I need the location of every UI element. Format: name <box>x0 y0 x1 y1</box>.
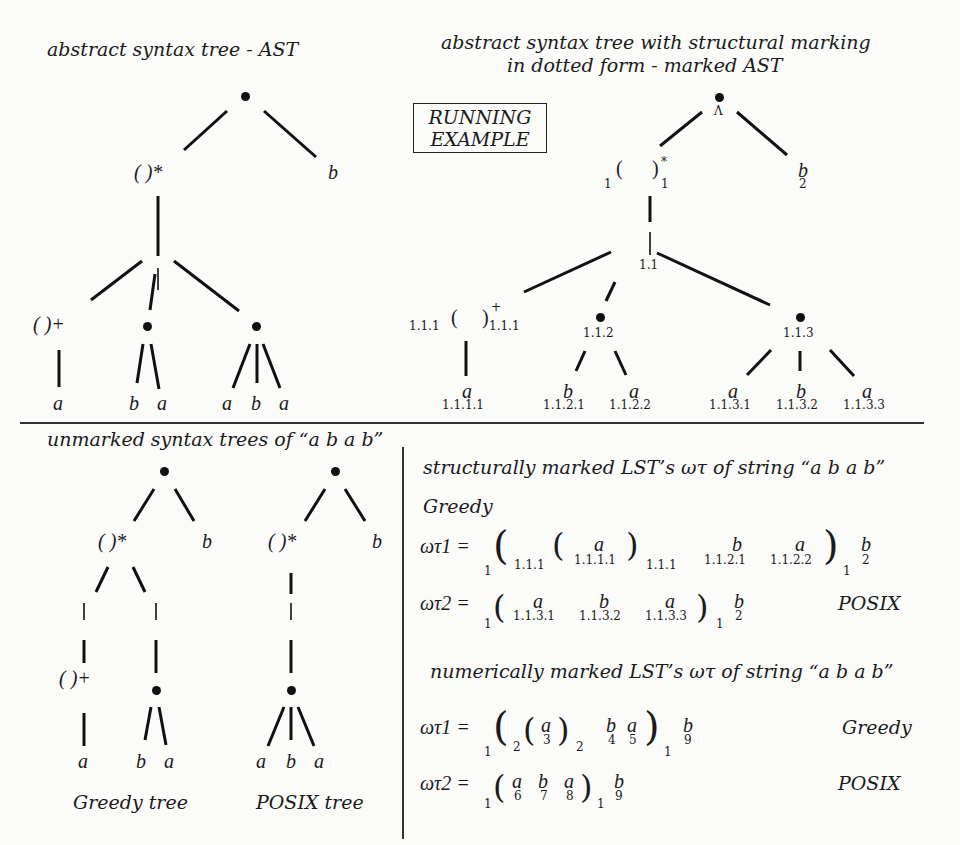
marked-leaf-mark: 1.1.3.1 <box>709 398 751 412</box>
n1-outer-close-paren: ) <box>644 706 660 746</box>
n1-a2-mark: 5 <box>629 733 637 747</box>
posix-root-bullet <box>331 467 340 476</box>
posix-leaf: b <box>286 750 296 773</box>
n2-outer-close-paren: ) <box>580 767 592 807</box>
s2-outer-open-paren: ( <box>493 587 505 627</box>
marked-plus-left-mark: 1.1.1 <box>409 319 440 333</box>
greedy-leaf: b <box>136 750 146 773</box>
marked-b-mark: 2 <box>799 177 807 191</box>
s1-inner-open-paren: ( <box>552 525 564 565</box>
n1-a1-mark: 3 <box>543 733 551 747</box>
marked-leaf-mark: 1.1.3.2 <box>776 398 818 412</box>
unmarked-trees-title: unmarked syntax trees of “a b a b” <box>47 428 383 450</box>
greedy-tree-caption: Greedy tree <box>73 791 188 813</box>
s1-outer-open-paren: ( <box>493 525 509 565</box>
s2-outer-close-mark: 1 <box>716 617 724 631</box>
posix-leaf: a <box>314 750 324 773</box>
marked-leaf-mark: 1.1.3.3 <box>843 398 885 412</box>
s2-outer-close-paren: ) <box>696 587 708 627</box>
s1-inner-open-mark: 1.1.1 <box>514 558 545 572</box>
numeric-lst-title: numerically marked LST’s ωτ of string “a… <box>430 660 893 682</box>
ast-leaf: b <box>251 392 261 415</box>
s2-b2-mark: 2 <box>735 609 743 623</box>
greedy-star-node: ( )* <box>98 530 126 553</box>
marked-node3-mark: 1.1.3 <box>783 326 814 340</box>
s1-a2-mark: 1.1.2.2 <box>770 553 812 567</box>
ast-leaf: a <box>53 392 63 415</box>
vertical-divider <box>402 447 404 839</box>
posix-leaf: a <box>256 750 266 773</box>
ast-plus-node: ( )+ <box>33 313 65 336</box>
s1-a1-mark: 1.1.1.1 <box>574 553 616 567</box>
horizontal-divider <box>20 422 924 424</box>
n2-posix-label: POSIX <box>838 772 900 794</box>
n1-outer-open-mark: 1 <box>484 745 492 759</box>
s2-b1-mark: 1.1.3.2 <box>579 609 621 623</box>
posix-bullet <box>287 686 296 695</box>
s1-lhs: ωτ1 = <box>420 535 470 558</box>
posix-tree-caption: POSIX tree <box>256 791 364 813</box>
s1-outer-close-mark: 1 <box>843 564 851 578</box>
s2-a2-mark: 1.1.3.3 <box>645 609 687 623</box>
greedy-root-bullet <box>160 467 169 476</box>
s2-a1-mark: 1.1.3.1 <box>513 609 555 623</box>
posix-star-node: ( )* <box>268 530 296 553</box>
n1-inner-close-mark: 2 <box>576 740 584 754</box>
n2-b2-mark: 9 <box>615 789 623 803</box>
marked-bullet-2 <box>596 313 605 322</box>
marked-star-sup: * <box>661 155 667 169</box>
s1-inner-close-mark: 1.1.1 <box>646 558 677 572</box>
ast-leaf: b <box>129 392 139 415</box>
s1-outer-open-mark: 1 <box>484 564 492 578</box>
ast-b-node: b <box>328 161 338 184</box>
n1-inner-open-paren: ( <box>523 710 535 750</box>
n1-b1-mark: 4 <box>608 733 616 747</box>
marked-bullet-3 <box>796 313 805 322</box>
marked-mid-mark: 1.1 <box>639 258 658 272</box>
running-example-line1: RUNNING <box>422 106 538 128</box>
ast-leaf: a <box>157 392 167 415</box>
marked-plus-open-paren: ( <box>451 306 458 329</box>
marked-ast-title-line2: in dotted form - marked AST <box>507 54 783 76</box>
marked-root-mark: Λ <box>714 104 723 118</box>
marked-plus-sup: + <box>491 300 501 314</box>
marked-plus-right-mark: 1.1.1 <box>489 319 520 333</box>
n2-outer-open-paren: ( <box>493 767 505 807</box>
ast-leaf: a <box>279 392 289 415</box>
ast-title: abstract syntax tree - AST <box>47 38 298 60</box>
n1-b2-mark: 9 <box>684 733 692 747</box>
marked-star-open-paren: ( <box>616 157 623 180</box>
s1-inner-close-paren: ) <box>626 525 638 565</box>
posix-b-node: b <box>372 530 382 553</box>
marked-ast-title-line1: abstract syntax tree with structural mar… <box>441 31 871 53</box>
n2-outer-close-mark: 1 <box>597 797 605 811</box>
n2-a2-mark: 8 <box>566 789 574 803</box>
n1-outer-close-mark: 1 <box>664 745 672 759</box>
marked-plus-close-paren: ) <box>482 306 489 329</box>
s1-b2-mark: 2 <box>862 553 870 567</box>
n1-greedy-label: Greedy <box>842 716 912 738</box>
n2-lhs: ωτ2 = <box>420 772 470 795</box>
n1-lhs: ωτ1 = <box>420 716 470 739</box>
marked-root-bullet <box>715 93 724 102</box>
greedy-bullet <box>152 686 161 695</box>
running-example-line2: EXAMPLE <box>422 128 538 150</box>
marked-node2-mark: 1.1.2 <box>583 326 614 340</box>
ast-bullet-2 <box>143 322 152 331</box>
greedy-b-node: b <box>202 530 212 553</box>
n2-a1-mark: 6 <box>514 789 522 803</box>
s2-outer-open-mark: 1 <box>484 617 492 631</box>
marked-star-close-paren: ) <box>652 157 659 180</box>
ast-root-bullet <box>241 92 250 101</box>
greedy-label: Greedy <box>423 495 493 517</box>
ast-bullet-3 <box>252 322 261 331</box>
greedy-leaf: a <box>78 750 88 773</box>
s1-b1-mark: 1.1.2.1 <box>704 553 746 567</box>
s2-posix-label: POSIX <box>838 592 900 614</box>
marked-star-left-mark: 1 <box>604 177 612 191</box>
greedy-plus-node: ( )+ <box>59 667 91 690</box>
greedy-leaf: a <box>164 750 174 773</box>
s1-outer-close-paren: ) <box>823 525 839 565</box>
n2-outer-open-mark: 1 <box>484 797 492 811</box>
structural-lst-title: structurally marked LST’s ωτ of string “… <box>423 456 885 478</box>
